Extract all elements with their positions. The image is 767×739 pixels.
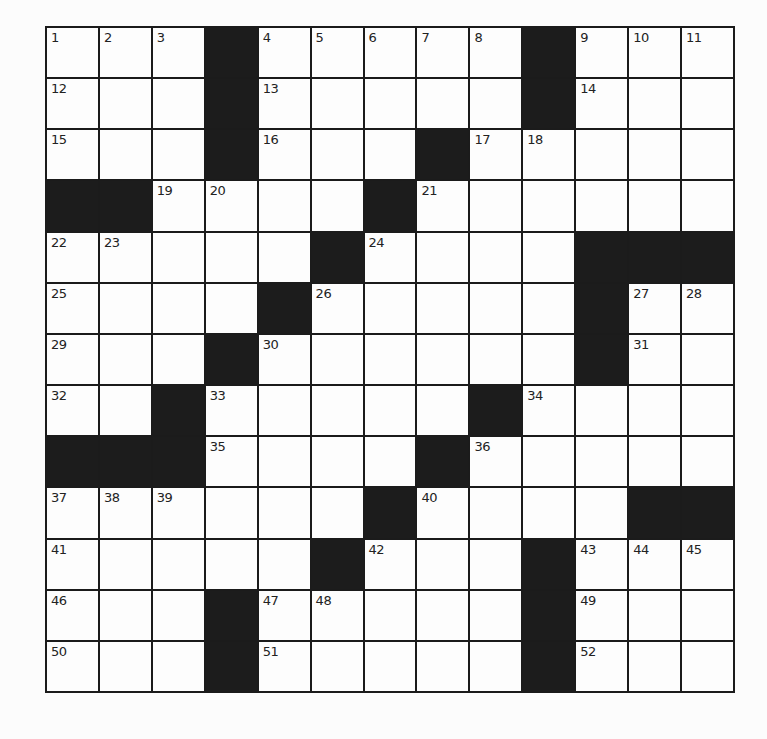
crossword-cell[interactable]: 3 [153,28,204,77]
crossword-cell[interactable] [629,181,680,230]
crossword-cell[interactable] [470,642,521,691]
crossword-cell[interactable] [682,386,733,435]
crossword-cell[interactable]: 45 [682,540,733,589]
crossword-cell[interactable] [153,130,204,179]
crossword-cell[interactable] [576,130,627,179]
crossword-cell[interactable]: 12 [47,79,98,128]
crossword-cell[interactable] [470,79,521,128]
crossword-cell[interactable]: 34 [523,386,574,435]
crossword-cell[interactable]: 42 [365,540,416,589]
crossword-cell[interactable] [629,386,680,435]
crossword-cell[interactable] [206,488,257,537]
crossword-cell[interactable] [523,181,574,230]
crossword-cell[interactable] [206,540,257,589]
crossword-cell[interactable] [417,591,468,640]
crossword-cell[interactable] [417,335,468,384]
crossword-cell[interactable] [576,181,627,230]
crossword-cell[interactable]: 52 [576,642,627,691]
crossword-cell[interactable]: 40 [417,488,468,537]
crossword-cell[interactable] [312,79,363,128]
crossword-cell[interactable] [629,437,680,486]
crossword-cell[interactable] [365,130,416,179]
crossword-cell[interactable]: 14 [576,79,627,128]
crossword-cell[interactable] [682,79,733,128]
crossword-cell[interactable] [576,437,627,486]
crossword-cell[interactable]: 43 [576,540,627,589]
crossword-cell[interactable] [100,284,151,333]
crossword-cell[interactable] [682,642,733,691]
crossword-cell[interactable]: 2 [100,28,151,77]
crossword-cell[interactable]: 28 [682,284,733,333]
crossword-cell[interactable] [629,642,680,691]
crossword-cell[interactable] [259,488,310,537]
crossword-cell[interactable]: 49 [576,591,627,640]
crossword-cell[interactable] [682,591,733,640]
crossword-cell[interactable]: 25 [47,284,98,333]
crossword-cell[interactable] [682,335,733,384]
crossword-cell[interactable] [417,233,468,282]
crossword-cell[interactable] [523,488,574,537]
crossword-cell[interactable]: 20 [206,181,257,230]
crossword-cell[interactable]: 29 [47,335,98,384]
crossword-cell[interactable] [312,437,363,486]
crossword-cell[interactable]: 47 [259,591,310,640]
crossword-cell[interactable]: 35 [206,437,257,486]
crossword-cell[interactable] [153,642,204,691]
crossword-cell[interactable] [259,233,310,282]
crossword-cell[interactable] [470,181,521,230]
crossword-cell[interactable] [206,284,257,333]
crossword-cell[interactable]: 10 [629,28,680,77]
crossword-cell[interactable] [312,386,363,435]
crossword-cell[interactable]: 9 [576,28,627,77]
crossword-cell[interactable]: 11 [682,28,733,77]
crossword-cell[interactable] [153,540,204,589]
crossword-cell[interactable] [153,284,204,333]
crossword-cell[interactable]: 23 [100,233,151,282]
crossword-cell[interactable] [365,386,416,435]
crossword-cell[interactable] [100,335,151,384]
crossword-cell[interactable]: 51 [259,642,310,691]
crossword-cell[interactable] [153,335,204,384]
crossword-cell[interactable] [523,284,574,333]
crossword-cell[interactable] [312,335,363,384]
crossword-cell[interactable]: 19 [153,181,204,230]
crossword-cell[interactable]: 50 [47,642,98,691]
crossword-cell[interactable]: 5 [312,28,363,77]
crossword-cell[interactable]: 48 [312,591,363,640]
crossword-cell[interactable] [100,79,151,128]
crossword-cell[interactable]: 44 [629,540,680,589]
crossword-cell[interactable]: 18 [523,130,574,179]
crossword-cell[interactable] [682,181,733,230]
crossword-cell[interactable] [259,540,310,589]
crossword-cell[interactable]: 8 [470,28,521,77]
crossword-cell[interactable] [523,233,574,282]
crossword-cell[interactable] [470,233,521,282]
crossword-cell[interactable] [365,335,416,384]
crossword-cell[interactable] [153,233,204,282]
crossword-cell[interactable] [417,79,468,128]
crossword-cell[interactable]: 41 [47,540,98,589]
crossword-cell[interactable] [629,130,680,179]
crossword-cell[interactable] [629,79,680,128]
crossword-cell[interactable]: 4 [259,28,310,77]
crossword-cell[interactable]: 46 [47,591,98,640]
crossword-cell[interactable] [100,642,151,691]
crossword-cell[interactable] [153,79,204,128]
crossword-cell[interactable]: 17 [470,130,521,179]
crossword-cell[interactable] [312,181,363,230]
crossword-cell[interactable] [470,284,521,333]
crossword-cell[interactable] [259,386,310,435]
crossword-cell[interactable] [417,642,468,691]
crossword-cell[interactable]: 32 [47,386,98,435]
crossword-cell[interactable]: 37 [47,488,98,537]
crossword-cell[interactable] [312,642,363,691]
crossword-cell[interactable] [576,386,627,435]
crossword-cell[interactable]: 31 [629,335,680,384]
crossword-cell[interactable]: 13 [259,79,310,128]
crossword-cell[interactable] [100,540,151,589]
crossword-cell[interactable] [523,437,574,486]
crossword-cell[interactable] [365,437,416,486]
crossword-cell[interactable] [629,591,680,640]
crossword-cell[interactable]: 6 [365,28,416,77]
crossword-cell[interactable] [417,540,468,589]
